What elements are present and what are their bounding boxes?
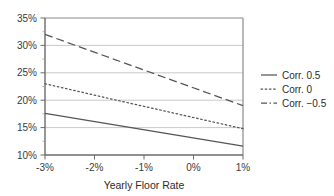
chart-figure: 35% 30% 25% 20% 15% 10% -3% -2% -1% 0% 1…: [0, 0, 334, 196]
y-tick-label-10: 10%: [17, 150, 37, 161]
x-tick-label-neg3: -3%: [36, 162, 54, 173]
y-tick-label-30: 30%: [17, 40, 37, 51]
chart-canvas: 35% 30% 25% 20% 15% 10% -3% -2% -1% 0% 1…: [0, 0, 334, 196]
y-tick-label-15: 15%: [17, 122, 37, 133]
x-tick-label-1: 1%: [236, 162, 251, 173]
y-tick-label-35: 35%: [17, 13, 37, 24]
x-tick-label-neg1: -1%: [135, 162, 153, 173]
x-axis-title: Yearly Floor Rate: [104, 179, 185, 191]
plot-area-background: [45, 18, 243, 155]
x-tick-label-neg2: -2%: [86, 162, 104, 173]
legend-label-corr-neg-0-5[interactable]: Corr. −0.5: [282, 98, 327, 109]
y-tick-label-25: 25%: [17, 67, 37, 78]
legend-label-corr-0-5[interactable]: Corr. 0.5: [282, 70, 321, 81]
legend: Corr. 0.5 Corr. 0 Corr. −0.5: [261, 70, 327, 109]
legend-label-corr-0[interactable]: Corr. 0: [282, 84, 312, 95]
x-tick-label-0: 0%: [186, 162, 201, 173]
y-tick-label-20: 20%: [17, 95, 37, 106]
